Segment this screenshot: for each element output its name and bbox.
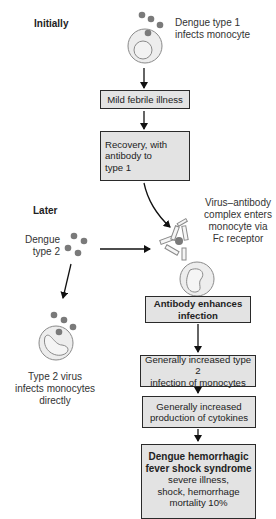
antibody-icon [160,219,188,260]
dengue-type2-label: Dengue type 2 [18,234,60,258]
box-text: antibody to [105,150,152,162]
box-text: production of cytokines [150,412,248,424]
virus-particle-icon [65,233,88,257]
box-text: Generally increased [156,401,241,413]
label-line: Dengue [18,234,60,246]
phase-initially-heading: Initially [34,18,68,29]
box-text: infection [178,310,218,322]
dhf-shock-syndrome-box: Dengue hemorrhagic fever shock syndrome … [141,444,256,519]
box-text: mortality 10% [169,497,227,509]
phase-later-heading: Later [33,205,57,216]
type2-direct-label: Type 2 virus infects monocytes directly [0,371,110,407]
complex-enters-label: Virus–antibody complex enters monocyte v… [200,197,276,245]
label-line: complex enters [200,209,276,221]
label-line: Fc receptor [200,233,276,245]
label-line: monocyte via [200,221,276,233]
antibody-enhances-box: Antibody enhances infection [145,296,251,323]
monocyte-icon [180,262,214,296]
box-text: Recovery, with [105,139,167,151]
box-text: infection of monocytes [150,377,245,389]
box-title: Dengue hemorrhagic [148,451,248,463]
box-text: shock, hemorrhage [157,486,239,498]
box-text: Generally increased type 2 [141,354,255,377]
increased-infection-box: Generally increased type 2 infection of … [140,355,256,387]
dengue-type1-label: Dengue type 1 infects monocyte [175,17,250,41]
box-text: Antibody enhances [154,298,243,310]
box-text: Mild febrile illness [107,94,183,106]
label-line: infects monocytes [0,383,110,395]
mild-febrile-illness-box: Mild febrile illness [100,90,190,109]
label-line: type 2 [18,246,60,258]
box-text: severe illness, [168,474,229,486]
monocyte-icon [39,326,73,360]
box-title: fever shock syndrome [145,463,251,475]
recovery-box: Recovery, with antibody to type 1 [100,131,190,181]
label-line: Type 2 virus [0,371,110,383]
label-line: Virus–antibody [200,197,276,209]
box-text: type 1 [105,162,131,174]
label-line: Dengue type 1 [175,17,250,29]
cytokines-box: Generally increased production of cytoki… [142,396,256,428]
label-line: infects monocyte [175,29,250,41]
virus-particle-icon [175,237,183,245]
label-line: directly [0,395,110,407]
